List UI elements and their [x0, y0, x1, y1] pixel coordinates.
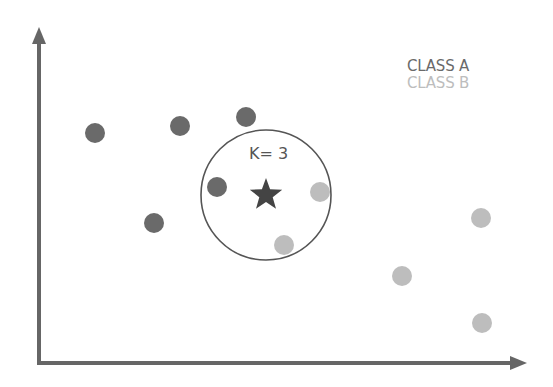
- point-class-b: [274, 235, 294, 255]
- legend-class-a: CLASS A: [407, 58, 469, 75]
- legend-class-b: CLASS B: [407, 75, 469, 92]
- knn-diagram: [0, 0, 553, 387]
- point-class-b: [471, 208, 491, 228]
- point-class-b: [310, 182, 330, 202]
- k-value-label: K= 3: [249, 144, 288, 163]
- x-axis-arrow-icon: [510, 356, 527, 370]
- point-class-a: [170, 116, 190, 136]
- legend: CLASS A CLASS B: [407, 58, 469, 92]
- y-axis-arrow-icon: [32, 27, 46, 44]
- point-class-b: [472, 313, 492, 333]
- point-class-a: [85, 123, 105, 143]
- point-class-b: [392, 266, 412, 286]
- point-class-a: [207, 177, 227, 197]
- data-points: [85, 107, 492, 333]
- point-class-a: [144, 213, 164, 233]
- query-star-icon: [250, 178, 282, 209]
- point-class-a: [236, 107, 256, 127]
